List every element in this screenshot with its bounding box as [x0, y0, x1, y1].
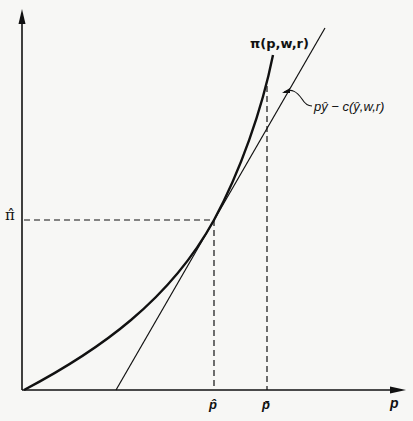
x-axis-arrow-icon [390, 387, 406, 394]
p-bar-label: p̄ [262, 398, 270, 411]
profit-function-curve [24, 55, 273, 390]
p-hat-label: p̂ [209, 398, 217, 411]
diagram-canvas [0, 0, 413, 421]
profit-function-diagram: π(p,w,r) pŷ − c(ŷ,w,r) π̂ p̂ p̄ p [0, 0, 413, 421]
tangent-line-label: pŷ − c(ŷ,w,r) [314, 100, 384, 113]
y-axis-arrow-icon [19, 9, 26, 24]
profit-function-label: π(p,w,r) [250, 37, 309, 50]
y-axis [19, 9, 26, 390]
pi-hat-label: π̂ [5, 208, 15, 223]
leader-arrow-icon [282, 88, 290, 93]
x-axis-label: p [390, 396, 399, 410]
